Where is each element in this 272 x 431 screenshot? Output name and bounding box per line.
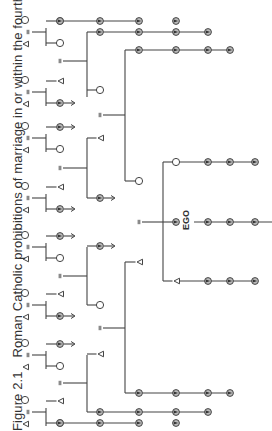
sibling-male [58, 78, 64, 84]
sibling-female [56, 254, 63, 261]
prohibited-descendant [173, 409, 180, 416]
prohibited-relative [136, 47, 143, 54]
ego-symbol [173, 219, 180, 226]
cousin-male [98, 135, 104, 141]
prohibited-cousin [97, 409, 104, 416]
prohibited-descendant [173, 390, 180, 397]
prohibited-cousin [97, 243, 104, 250]
aunt-female [135, 177, 142, 184]
prohibited-sibling [57, 341, 64, 348]
prohibited-descendant [252, 159, 259, 166]
brother-male [174, 278, 180, 284]
figure-number: Figure 2.1 [10, 371, 25, 431]
prohibited-sibling [57, 100, 64, 107]
kinship-diagram: EGO Figure 2.1Roman Catholic prohibition… [0, 0, 272, 431]
figure-caption-text: Roman Catholic prohibitions of marriage … [10, 0, 25, 357]
prohibited-sibling [57, 233, 64, 240]
figure-caption: Figure 2.1Roman Catholic prohibitions of… [10, 0, 25, 431]
prohibited-descendant [205, 219, 212, 226]
prohibited-descendant [97, 18, 104, 25]
kinship-diagram-svg: EGO [0, 0, 272, 431]
prohibited-descendant [252, 219, 259, 226]
uncle-male [137, 259, 143, 265]
prohibited-sibling [57, 206, 64, 213]
prohibited-descendant [205, 409, 212, 416]
prohibited-descendant [227, 159, 234, 166]
prohibited-descendant [173, 18, 180, 25]
prohibited-descendant [136, 18, 143, 25]
prohibited-sibling [57, 313, 64, 320]
prohibited-descendant [205, 159, 212, 166]
prohibited-descendant [205, 278, 212, 285]
sibling-female [56, 145, 63, 152]
prohibited-descendant [227, 219, 234, 226]
sibling-male [58, 398, 64, 404]
prohibited-sibling [57, 124, 64, 131]
sister-female [172, 158, 179, 165]
cousin-female [96, 301, 103, 308]
prohibited-descendant [57, 18, 64, 25]
prohibited-descendant [252, 278, 259, 285]
prohibited-descendant [227, 278, 234, 285]
prohibited-descendant [97, 420, 104, 427]
prohibited-cousin [97, 195, 104, 202]
prohibited-descendant [136, 29, 143, 36]
prohibited-descendant [173, 47, 180, 54]
ego-label: EGO [181, 210, 191, 230]
prohibited-cousin [97, 29, 104, 36]
prohibited-relative [136, 390, 143, 397]
prohibited-descendant [136, 409, 143, 416]
prohibited-descendant [173, 420, 180, 427]
cousin-female [96, 86, 103, 93]
sibling-female [56, 39, 63, 46]
sibling-female [56, 362, 63, 369]
prohibited-descendant [136, 420, 143, 427]
prohibited-descendant [227, 47, 234, 54]
sibling-male [58, 291, 64, 297]
sibling-male [58, 184, 64, 190]
prohibited-descendant [173, 29, 180, 36]
prohibited-descendant [57, 420, 64, 427]
prohibited-descendant [205, 390, 212, 397]
prohibited-descendant [205, 29, 212, 36]
prohibited-descendant [227, 390, 234, 397]
prohibited-descendant [205, 47, 212, 54]
cousin-male [98, 351, 104, 357]
